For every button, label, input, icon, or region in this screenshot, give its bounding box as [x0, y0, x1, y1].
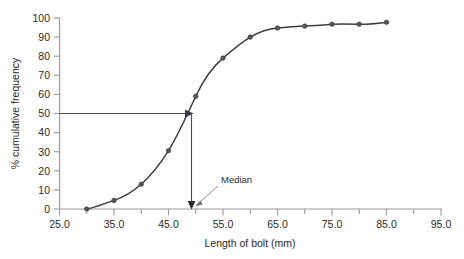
x-tick-label: 55.0	[213, 218, 234, 230]
x-axis: 25.0 35.0 45.0 55.0 65.0 75.0 85.0 95.0 …	[49, 209, 451, 249]
y-tick-label: 80	[38, 50, 50, 62]
data-point	[193, 94, 198, 99]
chart-svg: 100 90 80 70 60 50 40 30 20 10 0 % cumul…	[0, 0, 464, 259]
median-pointer-arrowhead	[195, 201, 202, 207]
y-tick-label: 40	[38, 126, 50, 138]
x-tick-label: 75.0	[322, 218, 343, 230]
y-tick-label: 0	[44, 203, 50, 215]
median-label: Median	[221, 174, 252, 185]
y-tick-label: 50	[38, 107, 50, 119]
y-axis-tick-labels: 100 90 80 70 60 50 40 30 20 10 0	[32, 12, 50, 215]
x-tick-label: 45.0	[158, 218, 179, 230]
data-point	[275, 26, 280, 31]
data-point	[139, 182, 144, 187]
x-tick-label: 35.0	[104, 218, 125, 230]
data-point	[112, 198, 117, 203]
x-tick-label: 65.0	[267, 218, 288, 230]
data-point	[221, 56, 226, 61]
x-axis-tick-labels: 25.0 35.0 45.0 55.0 65.0 75.0 85.0 95.0	[49, 218, 451, 230]
data-point	[84, 207, 89, 212]
cumulative-frequency-chart: 100 90 80 70 60 50 40 30 20 10 0 % cumul…	[0, 0, 464, 259]
y-axis-ticks	[54, 18, 60, 209]
x-tick-label: 95.0	[431, 218, 452, 230]
y-tick-label: 90	[38, 31, 50, 43]
x-tick-label: 85.0	[376, 218, 397, 230]
y-tick-label: 70	[38, 69, 50, 81]
x-axis-title: Length of bolt (mm)	[204, 237, 295, 249]
data-point	[357, 22, 362, 27]
data-point	[302, 24, 307, 29]
y-tick-label: 20	[38, 165, 50, 177]
data-point	[248, 35, 253, 40]
data-point	[330, 22, 335, 27]
y-axis-title: % cumulative frequency	[9, 57, 21, 169]
y-axis: 100 90 80 70 60 50 40 30 20 10 0 % cumul…	[9, 12, 60, 215]
median-construction: Median	[60, 110, 253, 210]
cropped-header-artifact	[300, 0, 440, 5]
data-point	[166, 148, 171, 153]
data-point	[384, 20, 389, 25]
y-tick-label: 100	[32, 12, 50, 24]
y-tick-label: 60	[38, 88, 50, 100]
x-axis-minor-ticks	[87, 209, 414, 214]
y-tick-label: 10	[38, 184, 50, 196]
x-tick-label: 25.0	[49, 218, 70, 230]
median-vertical-arrowhead	[188, 201, 196, 210]
y-tick-label: 30	[38, 146, 50, 158]
